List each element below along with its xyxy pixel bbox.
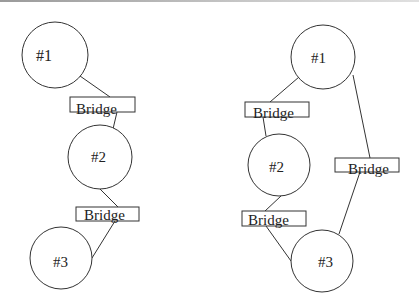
node-label: #3 — [318, 254, 333, 270]
bridge-label: Bridge — [76, 101, 117, 117]
edge-left-b2-n3 — [92, 221, 115, 258]
edge-right-n2-b3 — [265, 196, 281, 211]
bridge-label: Bridge — [84, 207, 125, 223]
edge-left-n2-b2 — [100, 189, 118, 207]
right-bridge-1: Bridge — [245, 102, 309, 121]
left-node-3: #3 — [30, 227, 92, 289]
node-label: #2 — [91, 149, 106, 165]
node-label: #2 — [269, 159, 284, 175]
bridge-label: Bridge — [348, 161, 389, 177]
left-node-2: #2 — [68, 125, 132, 189]
right-node-2: #2 — [248, 134, 310, 196]
right-node-1: #1 — [291, 25, 355, 89]
node-label: #1 — [36, 47, 52, 64]
edge-right-b3-n3 — [266, 226, 291, 261]
edge-right-n1-b2 — [353, 75, 370, 158]
bridge-label: Bridge — [248, 212, 289, 228]
node-label: #1 — [311, 50, 326, 66]
edge-left-n1-b1 — [80, 76, 110, 97]
node-label: #3 — [53, 254, 68, 270]
bridge-label: Bridge — [253, 105, 294, 121]
right-bridge-2: Bridge — [335, 158, 399, 177]
right-node-3: #3 — [291, 230, 353, 292]
left-node-1: #1 — [22, 22, 88, 88]
edge-right-n1-b1 — [270, 77, 299, 102]
left-bridge-1: Bridge — [70, 97, 135, 117]
left-bridge-2: Bridge — [76, 207, 139, 223]
edge-right-b2-n3 — [339, 172, 360, 234]
diagram-canvas: #1 Bridge #2 Bridge #3 #1 Bridge #2 Brid… — [0, 0, 419, 303]
right-bridge-3: Bridge — [242, 211, 306, 228]
